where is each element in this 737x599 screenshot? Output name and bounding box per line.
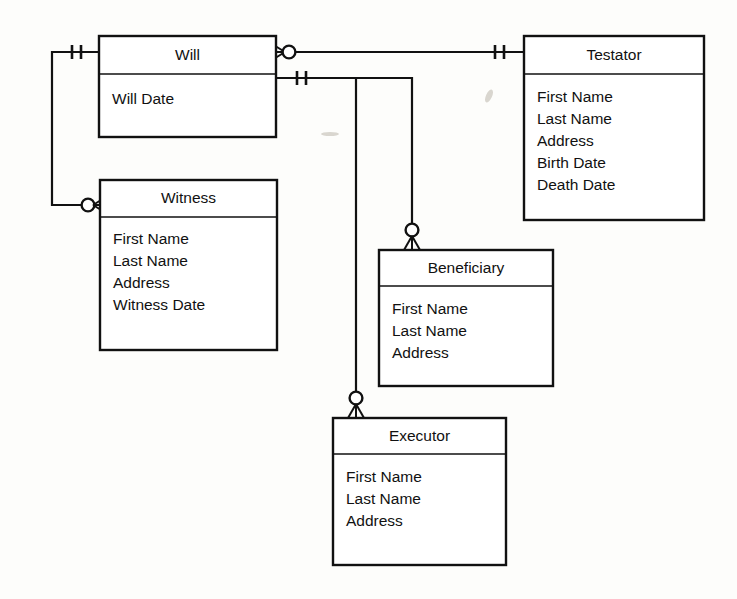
entity-title: Witness xyxy=(161,189,216,206)
zero-circle-icon xyxy=(283,46,296,59)
entity-attribute: Address xyxy=(113,274,170,291)
relationship-line xyxy=(52,52,99,205)
zero-circle-icon xyxy=(82,199,95,212)
relationship-line xyxy=(276,78,356,405)
entity-witness[interactable]: Witness First Name Last Name Address Wit… xyxy=(100,180,277,350)
entity-title: Executor xyxy=(389,427,450,444)
relationship-will-beneficiary xyxy=(276,78,420,250)
entity-attribute: First Name xyxy=(392,300,468,317)
entity-attribute: Address xyxy=(346,512,403,529)
entity-attribute: Address xyxy=(537,132,594,149)
er-diagram-canvas: Will Will Date Testator First Name Last … xyxy=(0,0,737,599)
entity-attribute: Death Date xyxy=(537,176,615,193)
entity-attribute: First Name xyxy=(346,468,422,485)
entity-attribute: First Name xyxy=(537,88,613,105)
entity-attribute: Last Name xyxy=(392,322,467,339)
entity-title: Will xyxy=(175,46,200,63)
entity-title: Beneficiary xyxy=(428,259,505,276)
zero-circle-icon xyxy=(350,392,363,405)
entity-executor[interactable]: Executor First Name Last Name Address xyxy=(333,418,506,565)
entity-testator[interactable]: Testator First Name Last Name Address Bi… xyxy=(524,36,704,220)
er-diagram-svg: Will Will Date Testator First Name Last … xyxy=(0,0,737,599)
relationship-will-testator xyxy=(272,44,524,60)
relationship-line xyxy=(276,78,412,237)
entity-attribute: First Name xyxy=(113,230,189,247)
entity-title: Testator xyxy=(586,46,641,63)
entity-beneficiary[interactable]: Beneficiary First Name Last Name Address xyxy=(379,250,553,386)
entity-attribute: Address xyxy=(392,344,449,361)
entity-attribute: Last Name xyxy=(537,110,612,127)
entity-attribute: Last Name xyxy=(113,252,188,269)
scan-speck xyxy=(321,132,339,136)
entity-attribute: Will Date xyxy=(112,90,174,107)
crowsfoot-icon xyxy=(348,404,364,418)
entity-attribute: Witness Date xyxy=(113,296,205,313)
relationship-will-executor xyxy=(276,71,364,418)
crowsfoot-icon xyxy=(404,236,420,250)
zero-circle-icon xyxy=(406,224,419,237)
scan-speck xyxy=(483,88,494,103)
entity-attribute: Last Name xyxy=(346,490,421,507)
entity-attribute: Birth Date xyxy=(537,154,606,171)
entity-will[interactable]: Will Will Date xyxy=(99,36,276,137)
